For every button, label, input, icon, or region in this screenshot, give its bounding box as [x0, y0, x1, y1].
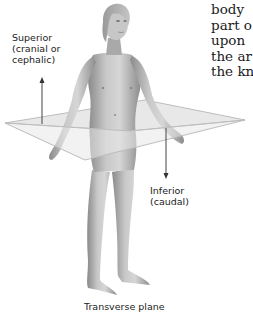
side-text-line: upon — [211, 33, 253, 49]
inferior-label-line-1: Inferior — [150, 185, 189, 196]
side-text-line: part o — [211, 18, 253, 34]
inferior-label: Inferior (caudal) — [150, 185, 189, 207]
superior-label-line-3: cephalic) — [12, 54, 61, 65]
side-text-line: the ar — [211, 49, 253, 65]
figure-caption: Transverse plane — [84, 301, 165, 312]
superior-label-line-1: Superior — [12, 32, 61, 43]
side-body-text: body part o upon the ar the kn — [211, 2, 253, 80]
side-text-line: body — [211, 2, 253, 18]
inferior-label-line-2: (caudal) — [150, 196, 189, 207]
side-text-line: the kn — [211, 64, 253, 80]
superior-label: Superior (cranial or cephalic) — [12, 32, 61, 65]
superior-label-line-2: (cranial or — [12, 43, 61, 54]
